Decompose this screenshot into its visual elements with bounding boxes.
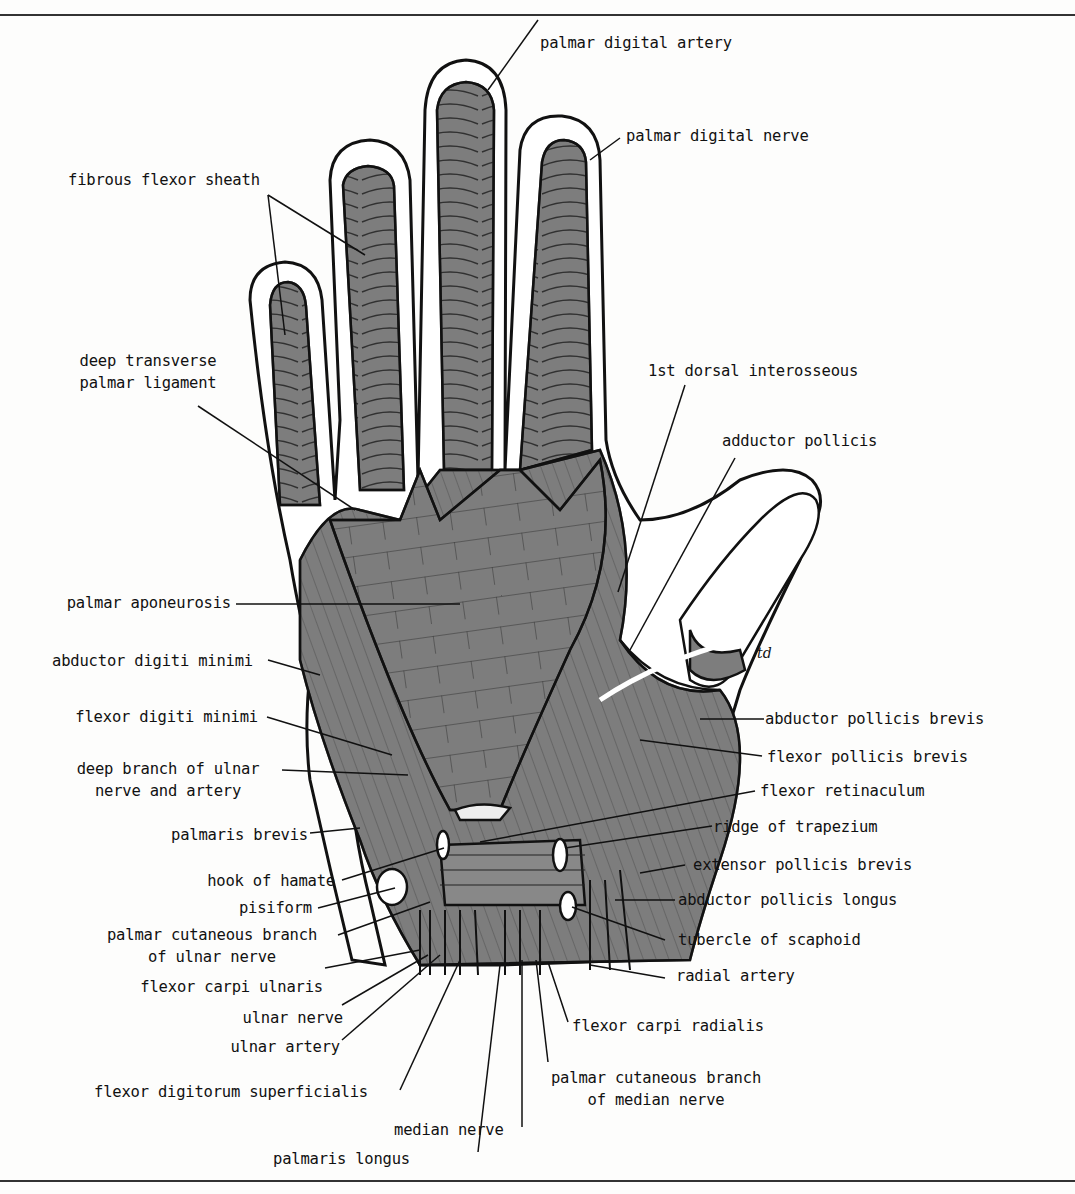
label-line-2: palmar ligament <box>68 374 228 393</box>
label-line-1: palmar cutaneous branch <box>532 1069 780 1088</box>
label-palmar-digital-nerve: palmar digital nerve <box>626 127 809 146</box>
label-flexor-pollicis-brevis: flexor pollicis brevis <box>767 748 968 767</box>
label-palmaris-brevis: palmaris brevis <box>171 826 308 845</box>
label-tubercle-of-scaphoid: tubercle of scaphoid <box>678 931 861 950</box>
label-palmaris-longus: palmaris longus <box>273 1150 410 1169</box>
label-1st-dorsal-interosseous: 1st dorsal interosseous <box>648 362 858 381</box>
label-fibrous-flexor-sheath: fibrous flexor sheath <box>68 171 260 190</box>
label-line-2: of ulnar nerve <box>88 948 336 967</box>
label-flexor-digiti-minimi: flexor digiti minimi <box>75 708 258 727</box>
label-line-1: deep branch of ulnar <box>62 760 274 779</box>
label-flexor-digitorum-superficialis: flexor digitorum superficialis <box>94 1083 368 1102</box>
label-pisiform: pisiform <box>239 899 312 918</box>
label-palmar-cutaneous-ulnar: palmar cutaneous branch of ulnar nerve <box>88 926 336 967</box>
label-abductor-pollicis-longus: abductor pollicis longus <box>678 891 897 910</box>
label-ridge-of-trapezium: ridge of trapezium <box>713 818 877 837</box>
label-adductor-pollicis: adductor pollicis <box>722 432 877 451</box>
label-flexor-retinaculum: flexor retinaculum <box>760 782 924 801</box>
label-hook-of-hamate: hook of hamate <box>207 872 335 891</box>
label-palmar-aponeurosis: palmar aponeurosis <box>67 594 231 613</box>
label-flexor-carpi-ulnaris: flexor carpi ulnaris <box>140 978 323 997</box>
label-line-2: of median nerve <box>532 1091 780 1110</box>
label-abductor-digiti-minimi: abductor digiti minimi <box>52 652 253 671</box>
label-ulnar-artery: ulnar artery <box>230 1038 340 1057</box>
label-line-1: deep transverse <box>68 352 228 371</box>
label-extensor-pollicis-brevis: extensor pollicis brevis <box>693 856 912 875</box>
label-line-1: palmar cutaneous branch <box>88 926 336 945</box>
label-flexor-carpi-radialis: flexor carpi radialis <box>572 1017 764 1036</box>
label-ulnar-nerve: ulnar nerve <box>243 1009 343 1028</box>
label-palmar-cutaneous-median: palmar cutaneous branch of median nerve <box>532 1069 780 1110</box>
label-radial-artery: radial artery <box>676 967 795 986</box>
label-line-2: nerve and artery <box>62 782 274 801</box>
label-deep-transverse-palmar-ligament: deep transverse palmar ligament <box>68 352 228 393</box>
label-palmar-digital-artery: palmar digital artery <box>540 34 732 53</box>
label-median-nerve: median nerve <box>394 1121 504 1140</box>
label-deep-branch-ulnar: deep branch of ulnar nerve and artery <box>62 760 274 801</box>
label-abductor-pollicis-brevis: abductor pollicis brevis <box>765 710 984 729</box>
artist-initials: td <box>757 645 772 661</box>
